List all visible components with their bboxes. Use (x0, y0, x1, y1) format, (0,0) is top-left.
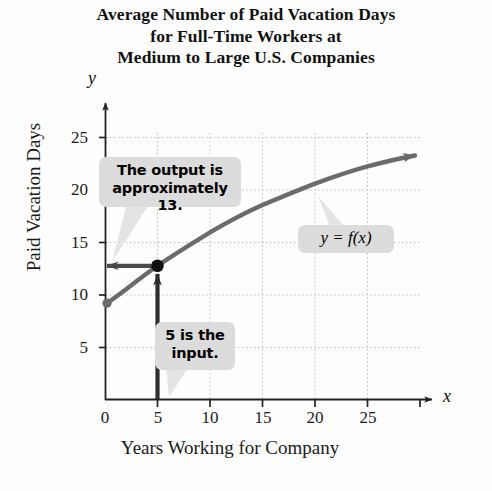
x-axis-variable-label: x (443, 386, 451, 407)
y-tick-label-10: 10 (48, 285, 88, 305)
x-tick-label-0: 0 (85, 408, 125, 428)
annotation-input-line-1: 5 is the (155, 327, 235, 345)
chart-figure: Average Number of Paid Vacation Days for… (0, 0, 492, 491)
annotation-function-label: y = f(x) (298, 225, 394, 253)
annotation-output-callout: The output is approximately 13. (99, 157, 241, 207)
x-tick-label-5: 5 (138, 408, 178, 428)
x-tick-label-25: 25 (348, 408, 388, 428)
y-tick-label-5: 5 (48, 338, 88, 358)
annotation-input-line-2: input. (155, 345, 235, 363)
highlight-point-marker (151, 260, 164, 273)
y-tick-label-25: 25 (48, 128, 88, 148)
y-tick-label-15: 15 (48, 233, 88, 253)
x-tick-marks (158, 400, 421, 407)
callout-fx-tail (318, 196, 344, 226)
annotation-input-callout: 5 is the input. (155, 322, 235, 370)
x-tick-label-20: 20 (295, 408, 335, 428)
y-axis-variable-label: y (88, 68, 96, 89)
curve-start-point (102, 299, 111, 308)
x-axis-title: Years Working for Company (60, 437, 400, 459)
annotation-output-line-1: The output is (99, 162, 241, 180)
y-tick-label-20: 20 (48, 180, 88, 200)
x-tick-label-10: 10 (190, 408, 230, 428)
annotation-output-line-2: approximately 13. (99, 180, 241, 215)
x-tick-label-15: 15 (243, 408, 283, 428)
y-axis-title: Paid Vacation Days (23, 102, 45, 292)
